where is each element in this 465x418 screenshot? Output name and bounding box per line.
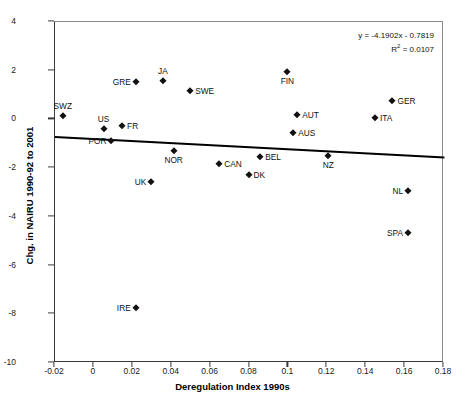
- data-point-marker[interactable]: [293, 111, 301, 119]
- r-squared-text: R2 = 0.0107: [358, 42, 434, 55]
- data-point-marker[interactable]: [216, 160, 224, 168]
- y-tick-label: -4: [8, 211, 16, 221]
- data-point-marker[interactable]: [186, 87, 194, 95]
- data-point-label: ITA: [380, 113, 392, 123]
- x-tick-label: 0: [91, 366, 96, 376]
- data-point-label: JA: [158, 66, 168, 76]
- y-tick-label: 0: [11, 113, 16, 123]
- data-point-marker[interactable]: [132, 78, 140, 86]
- y-tick-mark: [48, 69, 54, 70]
- data-point-marker[interactable]: [289, 129, 297, 137]
- data-point-label: SPA: [387, 228, 403, 238]
- data-point-marker[interactable]: [59, 112, 67, 120]
- y-tick-mark: [48, 118, 54, 119]
- x-tick-mark: [287, 362, 288, 367]
- data-point-marker[interactable]: [284, 69, 292, 77]
- plot-area: SWZUSPORFRGREIREUKJANORSWECANDKBELFINAUS…: [54, 21, 443, 362]
- data-point-label: NL: [392, 186, 403, 196]
- x-tick-mark: [248, 362, 249, 367]
- y-tick-label: -10: [4, 357, 16, 367]
- y-tick-label: -8: [8, 308, 16, 318]
- data-point-label: UK: [135, 177, 147, 187]
- data-point-label: SWE: [195, 86, 214, 96]
- data-point-label: FR: [127, 121, 138, 131]
- data-point-label: IRE: [117, 303, 131, 313]
- data-point-marker[interactable]: [170, 147, 178, 155]
- x-tick-label: 0.1: [281, 366, 293, 376]
- x-tick-label: 0.08: [240, 366, 257, 376]
- x-tick-mark: [131, 362, 132, 367]
- data-point-marker[interactable]: [256, 153, 264, 161]
- data-point-label: GER: [397, 96, 415, 106]
- data-point-label: NZ: [323, 160, 334, 170]
- data-point-label: POR: [88, 136, 106, 146]
- x-tick-mark: [404, 362, 405, 367]
- data-point-marker[interactable]: [389, 97, 397, 105]
- x-tick-label: 0.12: [318, 366, 335, 376]
- data-point-marker[interactable]: [404, 187, 412, 195]
- data-point-label: CAN: [224, 159, 242, 169]
- y-tick-label: 4: [11, 16, 16, 26]
- x-tick-mark: [326, 362, 327, 367]
- x-tick-mark: [209, 362, 210, 367]
- x-tick-mark: [53, 362, 54, 367]
- data-point-label: DK: [254, 170, 266, 180]
- data-point-label: AUS: [298, 128, 315, 138]
- data-point-label: BEL: [265, 152, 281, 162]
- data-point-marker[interactable]: [159, 77, 167, 85]
- data-point-label: US: [98, 114, 110, 124]
- data-point-marker[interactable]: [404, 229, 412, 237]
- data-point-marker[interactable]: [324, 152, 332, 160]
- data-point-label: FIN: [281, 76, 294, 86]
- data-point-label: AUT: [302, 110, 319, 120]
- data-point-marker[interactable]: [100, 125, 108, 133]
- data-point-label: GRE: [113, 77, 131, 87]
- data-point-marker[interactable]: [371, 114, 379, 122]
- scatter-chart-figure: Chg. in NAIRU 1990-92 to 2001 Deregulati…: [0, 0, 465, 418]
- x-tick-mark: [442, 362, 443, 367]
- x-tick-mark: [170, 362, 171, 367]
- y-tick-mark: [48, 167, 54, 168]
- x-tick-label: 0.02: [124, 366, 141, 376]
- data-point-marker[interactable]: [118, 122, 126, 130]
- y-tick-mark: [48, 313, 54, 314]
- y-tick-mark: [48, 215, 54, 216]
- y-tick-label: -2: [8, 162, 16, 172]
- y-tick-mark: [48, 20, 54, 21]
- y-tick-label: 2: [11, 65, 16, 75]
- x-tick-label: 0.16: [396, 366, 413, 376]
- x-axis-title: Deregulation Index 1990s: [0, 381, 465, 392]
- x-tick-label: 0.18: [435, 366, 452, 376]
- x-tick-mark: [365, 362, 366, 367]
- data-point-marker[interactable]: [147, 178, 155, 186]
- regression-equation-box: y = -4.1902x - 0.7819 R2 = 0.0107: [358, 30, 434, 55]
- data-point-label: NOR: [164, 155, 182, 165]
- r-squared-value: = 0.0107: [400, 44, 434, 53]
- x-tick-label: -0.02: [44, 366, 63, 376]
- data-point-marker[interactable]: [245, 172, 253, 180]
- x-tick-label: 0.04: [162, 366, 179, 376]
- y-tick-label: -6: [8, 260, 16, 270]
- x-tick-mark: [92, 362, 93, 367]
- y-axis-title: Chg. in NAIRU 1990-92 to 2001: [24, 71, 35, 321]
- y-tick-mark: [48, 264, 54, 265]
- x-tick-label: 0.14: [357, 366, 374, 376]
- regression-equation-text: y = -4.1902x - 0.7819: [358, 30, 434, 42]
- x-tick-label: 0.06: [201, 366, 218, 376]
- data-point-label: SWZ: [54, 101, 72, 111]
- data-point-marker[interactable]: [132, 304, 140, 312]
